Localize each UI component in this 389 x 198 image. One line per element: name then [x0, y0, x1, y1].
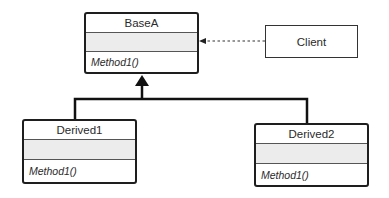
class-name: Derived2 [256, 125, 367, 144]
inheritance-arrowhead-icon [135, 75, 149, 86]
dependency-arrowhead-icon [199, 38, 206, 44]
class-operation: Method1() [256, 164, 367, 185]
class-operation: Method1() [86, 52, 197, 72]
class-name: BaseA [86, 14, 197, 33]
client-box[interactable]: Client [265, 25, 358, 58]
class-attributes [86, 33, 197, 52]
class-name: Derived1 [24, 121, 135, 140]
class-attributes [256, 144, 367, 164]
class-derived1[interactable]: Derived1 Method1() [22, 119, 137, 184]
class-basea[interactable]: BaseA Method1() [84, 12, 199, 74]
client-label: Client [297, 36, 326, 48]
class-derived2[interactable]: Derived2 Method1() [254, 123, 369, 187]
class-attributes [24, 140, 135, 160]
class-operation: Method1() [24, 160, 135, 182]
